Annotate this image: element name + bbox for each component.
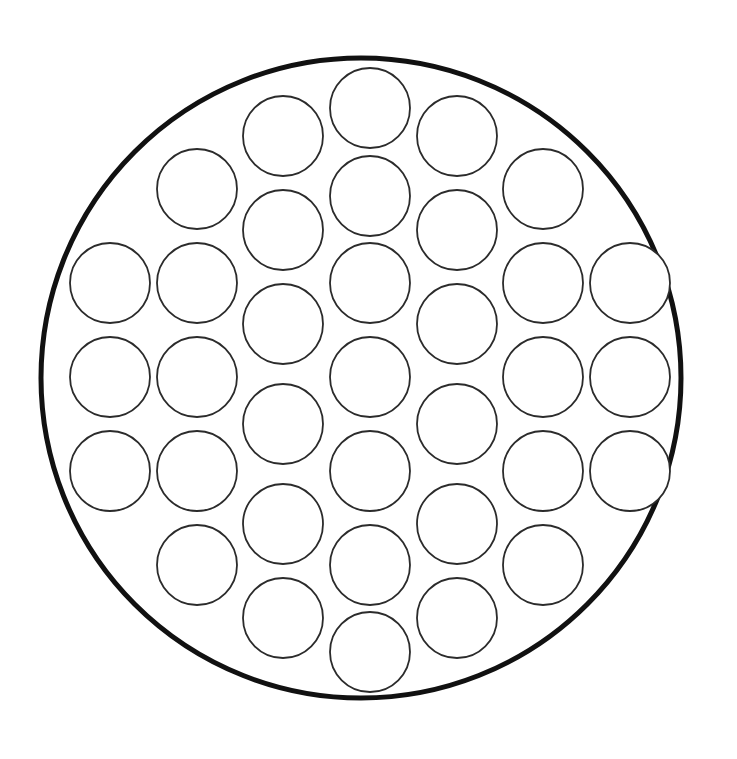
packed-circle: [417, 190, 497, 270]
packed-circle: [503, 337, 583, 417]
packed-circle: [330, 431, 410, 511]
packed-circle: [70, 337, 150, 417]
packed-circle: [503, 431, 583, 511]
packed-circle: [503, 149, 583, 229]
packed-circle: [243, 578, 323, 658]
packed-circle: [417, 484, 497, 564]
packed-circle: [417, 284, 497, 364]
packed-circle: [70, 243, 150, 323]
packed-circle: [157, 431, 237, 511]
packed-circle: [503, 243, 583, 323]
packed-circle: [417, 96, 497, 176]
packed-circle: [243, 284, 323, 364]
packed-circle: [590, 337, 670, 417]
packed-circle: [330, 525, 410, 605]
packed-circle: [243, 190, 323, 270]
packed-circle: [243, 484, 323, 564]
packed-circle: [330, 243, 410, 323]
packed-circle: [503, 525, 583, 605]
packed-circle: [590, 431, 670, 511]
packed-circle: [157, 337, 237, 417]
packed-circle: [417, 578, 497, 658]
packed-circle: [330, 612, 410, 692]
packed-circle: [157, 525, 237, 605]
packed-circle: [243, 384, 323, 464]
packed-circle: [330, 156, 410, 236]
diagram-canvas: [0, 0, 737, 759]
packed-circle: [417, 384, 497, 464]
packed-circle: [243, 96, 323, 176]
packed-circle: [157, 149, 237, 229]
packed-circle: [70, 431, 150, 511]
packed-circle: [157, 243, 237, 323]
packed-circle: [330, 337, 410, 417]
packed-circle: [330, 68, 410, 148]
packed-circle: [590, 243, 670, 323]
circle-packing-diagram: [0, 0, 737, 759]
